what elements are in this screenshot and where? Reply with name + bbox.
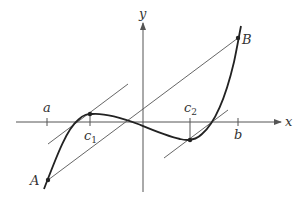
label-c2-sub: 2 — [191, 107, 197, 117]
x-axis-label: x — [285, 114, 293, 129]
point-A — [46, 178, 50, 182]
diagram-svg: y x a b c1 c2 A B — [0, 0, 304, 198]
point-B — [236, 36, 240, 40]
mvt-diagram: y x a b c1 c2 A B — [0, 0, 304, 198]
point-c2 — [188, 138, 192, 142]
label-A: A — [29, 173, 39, 188]
label-a: a — [43, 100, 51, 115]
y-axis-label: y — [138, 6, 147, 21]
label-c1: c1 — [84, 128, 97, 145]
tangent-line-c2 — [164, 110, 228, 158]
label-c2: c2 — [184, 100, 197, 117]
label-b: b — [234, 127, 242, 142]
label-c1-sub: 1 — [91, 135, 97, 145]
point-c1 — [88, 112, 92, 116]
label-B: B — [241, 32, 252, 47]
